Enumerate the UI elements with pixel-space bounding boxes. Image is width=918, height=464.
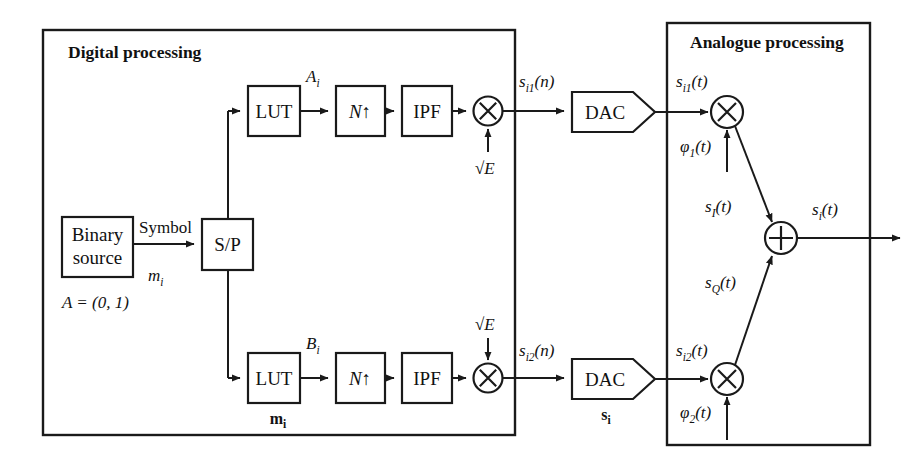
s-I-t-label: sI(t) <box>705 197 732 219</box>
wire-sQ-to-adder <box>735 256 772 365</box>
alphabet-label: A = (0, 1) <box>61 293 129 312</box>
s-i2-t-label: si2(t) <box>676 341 708 363</box>
digital-processing-title: Digital processing <box>68 42 202 62</box>
dac-upper-label: DAC <box>585 102 625 123</box>
lut-upper-label: LUT <box>256 101 293 122</box>
s-i-t-output-label: si(t) <box>812 200 838 222</box>
s-i1-n-label: si1(n) <box>519 72 555 94</box>
lut-lower-label: LUT <box>256 368 293 389</box>
modulator-block-diagram: Digital processing Analogue processing B… <box>0 0 918 464</box>
m-vector-label: mi <box>270 410 287 430</box>
binary-source-label-line1: Binary <box>72 224 124 245</box>
sqrt-E-upper-label: √E <box>475 159 495 178</box>
upsampler-upper-label: N↑ <box>348 101 371 122</box>
sp-label: S/P <box>214 234 240 255</box>
analogue-processing-title: Analogue processing <box>690 32 844 52</box>
s-i1-t-label: si1(t) <box>676 72 708 94</box>
s-Q-t-label: sQ(t) <box>705 273 736 295</box>
wire-sI-to-adder <box>735 126 772 222</box>
B-i-label: Bi <box>306 334 320 356</box>
sqrt-E-lower-label: √E <box>475 315 495 334</box>
ipf-lower-label: IPF <box>413 368 440 389</box>
binary-source-label-line2: source <box>73 247 123 268</box>
s-i2-n-label: si2(n) <box>519 341 555 363</box>
ipf-upper-label: IPF <box>413 101 440 122</box>
upsampler-lower-label: N↑ <box>348 368 371 389</box>
A-i-label: Ai <box>305 67 320 89</box>
symbol-label: Symbol <box>139 218 192 237</box>
phi2-label: φ2(t) <box>680 403 712 425</box>
dac-lower-label: DAC <box>585 369 625 390</box>
s-vector-label: si <box>601 406 611 426</box>
phi1-label: φ1(t) <box>680 137 712 159</box>
m-i-label: mi <box>148 266 163 288</box>
